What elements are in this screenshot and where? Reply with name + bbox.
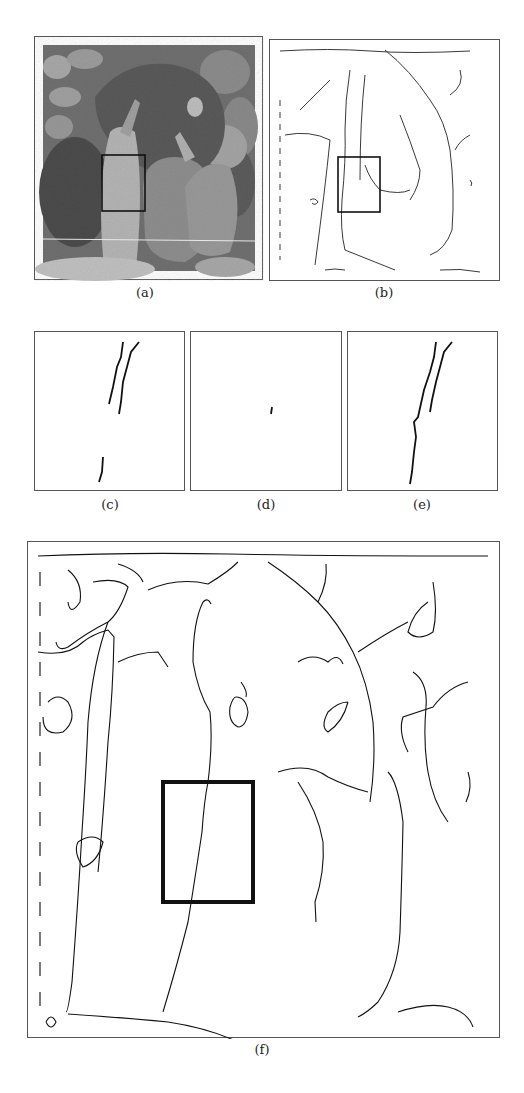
panel-d xyxy=(190,331,342,491)
panel-label-c: (c) xyxy=(80,497,140,512)
panel-label-a: (a) xyxy=(115,285,175,300)
panel-label-e: (e) xyxy=(392,497,452,512)
panel-e xyxy=(347,331,498,491)
edge-detail-e xyxy=(348,332,499,492)
panel-label-d: (d) xyxy=(236,497,296,512)
region-box xyxy=(163,782,253,902)
panel-label-f: (f) xyxy=(232,1042,292,1057)
panel-c xyxy=(34,331,185,491)
panel-f xyxy=(27,541,500,1038)
edge-map-small xyxy=(270,40,501,282)
edge-detail-d xyxy=(191,332,343,492)
panel-label-b: (b) xyxy=(354,285,414,300)
panel-b xyxy=(269,39,500,281)
edge-detail-c xyxy=(35,332,186,492)
panel-a xyxy=(34,36,263,280)
edge-map-large xyxy=(28,542,501,1039)
peppers-photo xyxy=(35,37,264,281)
